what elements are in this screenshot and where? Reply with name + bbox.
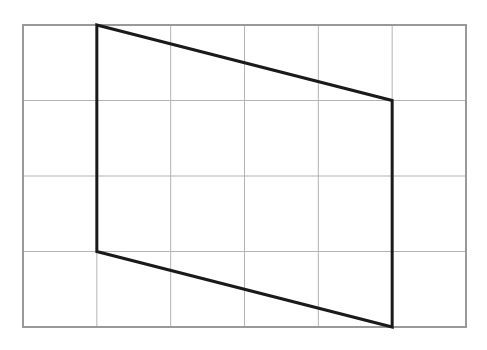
grid-lines xyxy=(23,25,466,327)
grid-diagram xyxy=(0,0,487,350)
